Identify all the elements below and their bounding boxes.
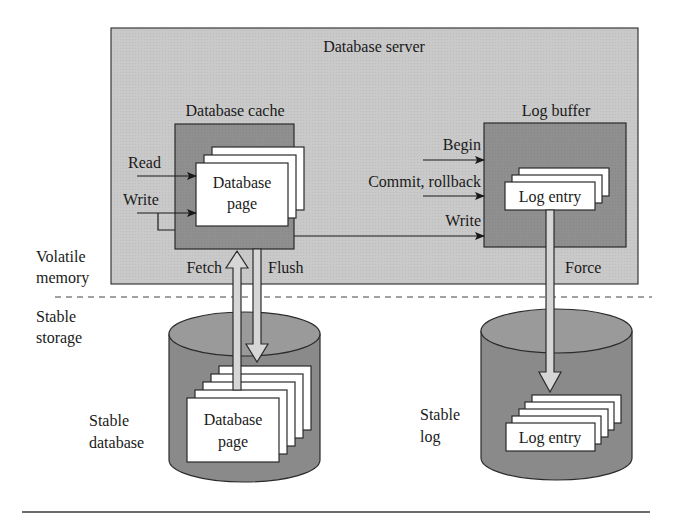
diagram-canvas: Database server Database cache Database … <box>0 0 674 514</box>
stable-log-entry-label: Log entry <box>519 429 582 447</box>
stable-database-label: Stable <box>89 412 129 429</box>
volatile-label-2: memory <box>36 269 89 287</box>
cache-page-stack: Database page <box>196 147 304 226</box>
fetch-label: Fetch <box>186 259 222 276</box>
stable-storage-label-2: storage <box>36 329 82 347</box>
stable-db-page-label-2: page <box>218 433 248 451</box>
cache-page-label: Database <box>213 174 272 191</box>
write-label: Write <box>123 191 159 208</box>
log-write-label: Write <box>445 212 481 229</box>
force-label: Force <box>565 259 601 276</box>
commit-rollback-label: Commit, rollback <box>368 173 481 190</box>
stable-log-label-2: log <box>420 428 440 446</box>
stable-database-cylinder: Database page Stable database <box>89 312 320 482</box>
cache-title: Database cache <box>185 102 284 119</box>
log-entry-label: Log entry <box>519 188 582 206</box>
stable-database-label-2: database <box>89 434 144 451</box>
log-entry-stack: Log entry <box>505 168 609 210</box>
volatile-label: Volatile <box>36 248 85 265</box>
server-title: Database server <box>323 38 425 55</box>
stable-log-label: Stable <box>420 406 460 423</box>
log-buffer-title: Log buffer <box>522 102 591 120</box>
stable-storage-label: Stable <box>36 308 76 325</box>
cache-page-label-2: page <box>227 195 257 213</box>
stable-log-cylinder: Log entry Stable log <box>420 309 632 480</box>
begin-label: Begin <box>443 136 481 154</box>
stable-db-page-label: Database <box>204 411 263 428</box>
read-label: Read <box>128 154 161 171</box>
flush-label: Flush <box>268 259 304 276</box>
